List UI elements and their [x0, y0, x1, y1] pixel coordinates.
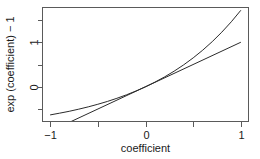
plot-background	[0, 0, 260, 159]
x-axis-title: coefficient	[121, 142, 170, 154]
x-tick-label: 1	[238, 129, 244, 141]
x-tick-label: 0	[143, 129, 149, 141]
chart-page: −101 10 coefficient exp (coefficient) − …	[0, 0, 260, 159]
y-tick-label: 1	[28, 39, 40, 45]
x-tick-label: −1	[44, 129, 57, 141]
plot-area: −101 10 coefficient exp (coefficient) − …	[0, 0, 260, 159]
y-axis-title: exp (coefficient) − 1	[4, 16, 16, 112]
y-tick-label: 0	[28, 84, 40, 90]
